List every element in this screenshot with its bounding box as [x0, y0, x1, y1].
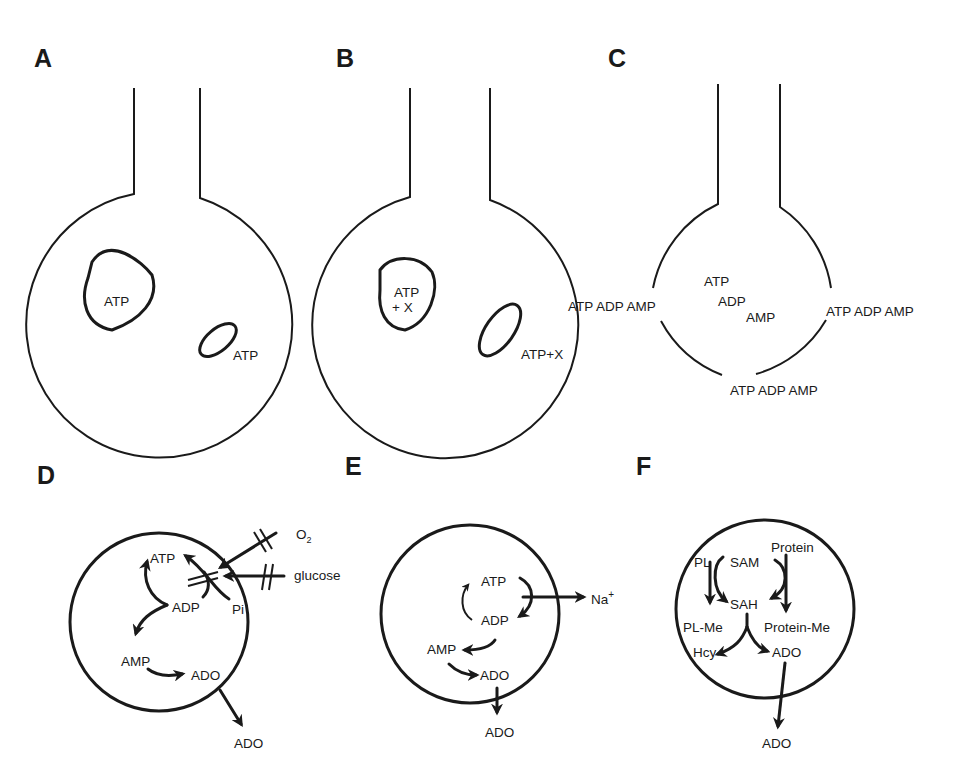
ado-outside-label: ADO: [485, 725, 514, 740]
adp-to-atp-arrow: [146, 562, 167, 605]
amp-to-ado-arrow: [449, 664, 476, 675]
vesicle-atp-label: ATP: [104, 294, 129, 309]
adp-to-atp-arrow: [462, 585, 472, 620]
panel-d: D ATP ADP Pi AMP ADO ADO O2 glucose: [37, 461, 341, 751]
panel-label-f: F: [636, 452, 651, 480]
released-atp-x-label: ATP+X: [521, 347, 563, 362]
cell-outline: [676, 520, 854, 698]
adp-label: ADP: [481, 613, 509, 628]
sam-to-sah-right-arrow: [772, 560, 785, 598]
cell-outline: [381, 525, 559, 703]
released-atp-label: ATP: [233, 348, 258, 363]
vesicle-x-label: + X: [392, 300, 413, 315]
oxygen-input-arrow: [221, 533, 276, 567]
adp-to-amp-arrow: [465, 640, 495, 650]
protein-label: Protein: [771, 540, 814, 555]
glucose-label: glucose: [294, 568, 341, 583]
panel-label-a: A: [34, 44, 52, 72]
sam-to-sah-left-arrow: [715, 557, 726, 601]
left-release-label: ATP ADP AMP: [568, 299, 656, 314]
panel-label-c: C: [608, 44, 626, 72]
hcy-label: Hcy: [693, 645, 716, 660]
amp-label: AMP: [121, 654, 150, 669]
amp-to-ado-arrow: [148, 669, 182, 675]
atp-label: ATP: [150, 551, 175, 566]
ado-inside-label: ADO: [191, 668, 220, 683]
sodium-label: Na+: [591, 589, 614, 607]
figure-canvas: A ATP ATP B ATP + X ATP+X C ATP ADP AMP …: [0, 0, 974, 778]
adp-label: ADP: [172, 600, 200, 615]
ado-inside-label: ADO: [480, 668, 509, 683]
bottom-release-label: ATP ADP AMP: [730, 383, 818, 398]
inside-amp-label: AMP: [746, 310, 775, 325]
membrane-upper-left: [653, 84, 718, 288]
membrane-upper-right: [780, 84, 831, 288]
pl-label: PL: [694, 555, 711, 570]
pi-label: Pi: [232, 602, 244, 617]
panel-c: C ATP ADP AMP ATP ADP AMP ATP ADP AMP AT…: [568, 44, 914, 398]
panel-a: A ATP ATP: [26, 44, 292, 458]
inside-atp-label: ATP: [704, 274, 729, 289]
storage-vesicle: [85, 250, 154, 330]
nerve-terminal-outline: [312, 88, 578, 458]
ado-outside-label: ADO: [234, 736, 263, 751]
membrane-lower-right: [756, 320, 826, 374]
panel-label-d: D: [37, 461, 55, 489]
vesicle-atp-label: ATP: [394, 285, 419, 300]
amp-label: AMP: [427, 642, 456, 657]
atp-label: ATP: [481, 574, 506, 589]
sam-label: SAM: [730, 555, 759, 570]
oxygen-label: O2: [296, 527, 312, 545]
panel-b: B ATP + X ATP+X: [312, 44, 578, 458]
membrane-lower-left: [661, 321, 722, 375]
protein-me-label: Protein-Me: [764, 620, 830, 635]
right-release-label: ATP ADP AMP: [826, 304, 914, 319]
pl-me-label: PL-Me: [683, 620, 723, 635]
panel-label-b: B: [336, 44, 354, 72]
panel-label-e: E: [345, 452, 362, 480]
inside-adp-label: ADP: [718, 294, 746, 309]
nerve-terminal-outline: [26, 88, 292, 458]
sah-label: SAH: [730, 597, 758, 612]
panel-f: F PL SAM Protein SAH PL-Me Protein-Me Hc…: [636, 452, 854, 751]
ado-outside-label: ADO: [762, 736, 791, 751]
panel-e: E ATP ADP AMP ADO ADO Na+: [345, 452, 614, 740]
adp-to-amp-arrow: [136, 605, 167, 633]
ado-export-arrow: [220, 690, 241, 724]
ado-inside-label: ADO: [772, 645, 801, 660]
